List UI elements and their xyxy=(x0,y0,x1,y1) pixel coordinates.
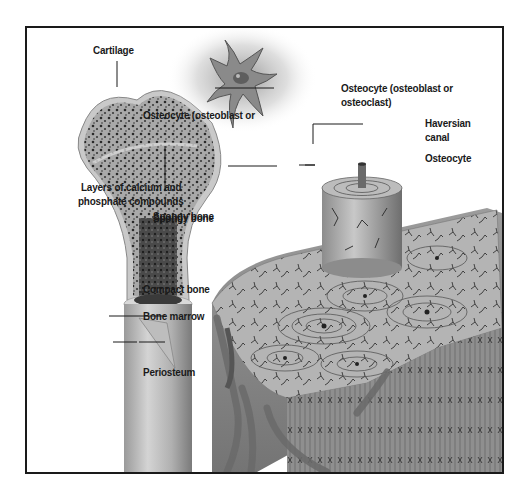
label-periosteum: Periosteum xyxy=(143,366,195,379)
label-spongy-bone: Spongy bone xyxy=(153,210,214,223)
label-osteocyte-cell-line1: Osteocyte (osteoblast or xyxy=(341,82,453,95)
osteon-cylinder xyxy=(322,162,402,278)
label-bone-marrow: Bone marrow xyxy=(143,310,204,323)
label-layers-line1: Layers of calcium and xyxy=(81,181,181,194)
long-bone xyxy=(78,91,221,472)
label-osteocyte: Osteocyte xyxy=(425,152,471,165)
label-haversian-canal-line1: Haversian xyxy=(425,117,471,130)
label-osteocyte-cell-line1: Osteocyte (osteoblast or xyxy=(143,109,255,122)
label-haversian-canal-line2: canal xyxy=(425,131,449,144)
label-compact-bone: Compact bone xyxy=(143,283,210,296)
label-osteocyte-cell-line2: osteoclast) xyxy=(341,96,391,109)
label-layers-line2: phosphate compounds xyxy=(78,195,184,208)
label-cartilage: Cartilage xyxy=(93,44,134,57)
